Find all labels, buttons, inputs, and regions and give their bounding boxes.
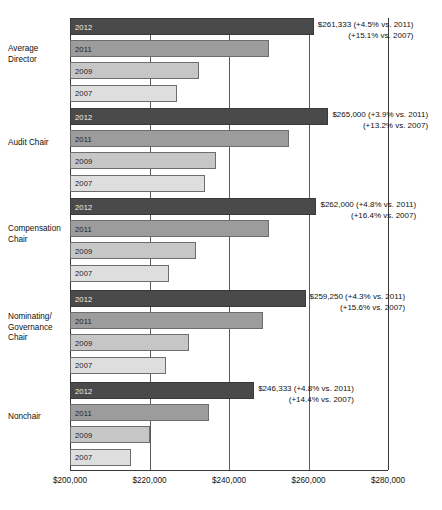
bar-2012[interactable]: 2012	[70, 108, 328, 125]
group-label-line: Chair	[8, 333, 28, 342]
bar-2007[interactable]: 2007	[70, 265, 169, 282]
callout-line-1: $262,000 (+4.8% vs. 2011)	[320, 200, 416, 209]
bar-row: 2009	[70, 334, 388, 352]
bar-2012[interactable]: 2012	[70, 382, 254, 399]
bar-year-label: 2011	[75, 317, 92, 326]
callout-line-1: $261,333 (+4.5% vs. 2011)	[318, 20, 414, 29]
bar-2009[interactable]: 2009	[70, 334, 189, 351]
bar-row: 2009	[70, 152, 388, 170]
callout-line-2: (+15.1% vs. 2007)	[318, 31, 414, 42]
x-tick-label: $260,000	[291, 476, 325, 485]
category-label: CompensationChair	[8, 224, 66, 244]
category-label: Nonchair	[8, 412, 66, 422]
x-tick-label: $240,000	[212, 476, 246, 485]
bar-2011[interactable]: 2011	[70, 130, 289, 147]
value-callout: $261,333 (+4.5% vs. 2011)(+15.1% vs. 200…	[318, 20, 414, 41]
group-label-line: Audit Chair	[8, 138, 49, 147]
bar-2011[interactable]: 2011	[70, 312, 263, 329]
chart-group: Audit Chair2012201120092007$265,000 (+3.…	[0, 108, 442, 197]
group-label-line: Chair	[8, 235, 28, 244]
bar-row: 2007	[70, 175, 388, 193]
chart-group: CompensationChair2012201120092007$262,00…	[0, 198, 442, 287]
bar-row: 2007	[70, 449, 388, 467]
bar-year-label: 2007	[75, 89, 92, 98]
bar-row: 2011	[70, 312, 388, 330]
category-label: Audit Chair	[8, 138, 66, 148]
group-label-line: Governance	[8, 323, 53, 332]
category-label: AverageDirector	[8, 44, 66, 64]
chart-group: AverageDirector2012201120092007$261,333 …	[0, 18, 442, 107]
bar-row: 2009	[70, 426, 388, 444]
bar-chart: AverageDirector2012201120092007$261,333 …	[0, 0, 442, 510]
group-label-line: Compensation	[8, 224, 61, 233]
bar-year-label: 2007	[75, 269, 92, 278]
bar-row: 2011	[70, 404, 388, 422]
bar-year-label: 2012	[75, 113, 92, 122]
bar-2012[interactable]: 2012	[70, 290, 306, 307]
bar-2011[interactable]: 2011	[70, 40, 269, 57]
bar-year-label: 2009	[75, 339, 92, 348]
bar-2007[interactable]: 2007	[70, 449, 131, 466]
bar-row: 2009	[70, 62, 388, 80]
callout-line-2: (+14.4% vs. 2007)	[258, 395, 354, 406]
bar-row: 2007	[70, 265, 388, 283]
chart-group: Nonchair2012201120092007$246,333 (+4.8% …	[0, 382, 442, 471]
group-label-line: Nominating/	[8, 312, 52, 321]
bar-2012[interactable]: 2012	[70, 198, 316, 215]
bar-2009[interactable]: 2009	[70, 242, 196, 259]
group-label-line: Nonchair	[8, 412, 41, 421]
x-tick-label: $200,000	[53, 476, 87, 485]
bar-2009[interactable]: 2009	[70, 426, 150, 443]
bar-year-label: 2011	[75, 45, 92, 54]
bar-2007[interactable]: 2007	[70, 175, 205, 192]
bar-year-label: 2012	[75, 203, 92, 212]
value-callout: $259,250 (+4.3% vs. 2011)(+15.6% vs. 200…	[310, 292, 406, 313]
bar-2009[interactable]: 2009	[70, 152, 216, 169]
callout-line-2: (+15.6% vs. 2007)	[310, 303, 406, 314]
group-label-line: Director	[8, 55, 37, 64]
bar-year-label: 2009	[75, 431, 92, 440]
x-tick-label: $280,000	[371, 476, 405, 485]
bar-2007[interactable]: 2007	[70, 357, 166, 374]
bar-year-label: 2012	[75, 23, 92, 32]
callout-line-2: (+16.4% vs. 2007)	[320, 211, 416, 222]
bar-year-label: 2009	[75, 157, 92, 166]
x-tick-label: $220,000	[132, 476, 166, 485]
bar-row: 2011	[70, 130, 388, 148]
bar-row: 2007	[70, 357, 388, 375]
bar-year-label: 2011	[75, 409, 92, 418]
bar-row: 2011	[70, 40, 388, 58]
bar-year-label: 2009	[75, 247, 92, 256]
bar-year-label: 2009	[75, 67, 92, 76]
value-callout: $265,000 (+3.9% vs. 2011)(+13.2% vs. 200…	[332, 110, 428, 131]
callout-line-1: $265,000 (+3.9% vs. 2011)	[332, 110, 428, 119]
bar-row: 2011	[70, 220, 388, 238]
bar-year-label: 2007	[75, 361, 92, 370]
bar-2007[interactable]: 2007	[70, 85, 177, 102]
value-callout: $246,333 (+4.8% vs. 2011)(+14.4% vs. 200…	[258, 384, 354, 405]
callout-line-1: $246,333 (+4.8% vs. 2011)	[258, 384, 354, 393]
bar-2011[interactable]: 2011	[70, 404, 209, 421]
bar-2009[interactable]: 2009	[70, 62, 199, 79]
chart-group: Nominating/GovernanceChair20122011200920…	[0, 290, 442, 379]
bar-year-label: 2007	[75, 179, 92, 188]
bar-year-label: 2007	[75, 453, 92, 462]
bar-2012[interactable]: 2012	[70, 18, 314, 35]
category-label: Nominating/GovernanceChair	[8, 312, 66, 343]
group-label-line: Average	[8, 44, 38, 53]
callout-line-1: $259,250 (+4.3% vs. 2011)	[310, 292, 406, 301]
bar-year-label: 2012	[75, 295, 92, 304]
bar-row: 2009	[70, 242, 388, 260]
callout-line-2: (+13.2% vs. 2007)	[332, 121, 428, 132]
bar-row: 2007	[70, 85, 388, 103]
value-callout: $262,000 (+4.8% vs. 2011)(+16.4% vs. 200…	[320, 200, 416, 221]
bar-2011[interactable]: 2011	[70, 220, 269, 237]
bar-year-label: 2012	[75, 387, 92, 396]
bar-year-label: 2011	[75, 135, 92, 144]
bar-year-label: 2011	[75, 225, 92, 234]
